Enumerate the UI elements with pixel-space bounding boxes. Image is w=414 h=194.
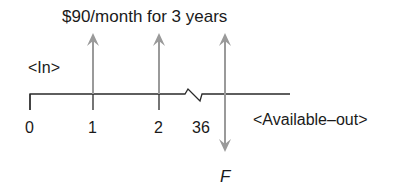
period-label-36: 36 (192, 120, 210, 136)
period-label-0: 0 (25, 120, 34, 136)
arrow-up-1 (87, 33, 99, 94)
arrow-down-36-future-value (219, 94, 231, 152)
axis-ticks (30, 94, 159, 110)
cash-flow-diagram (0, 0, 414, 194)
period-label-1: 1 (88, 120, 97, 136)
inflow-label: <In> (28, 60, 60, 76)
period-label-2: 2 (154, 120, 163, 136)
outflow-label: <Available–out> (253, 112, 367, 128)
diagram-title: $90/month for 3 years (62, 8, 227, 25)
future-value-label: F (220, 168, 230, 185)
arrow-up-36 (219, 33, 231, 94)
arrow-up-2 (153, 33, 165, 94)
